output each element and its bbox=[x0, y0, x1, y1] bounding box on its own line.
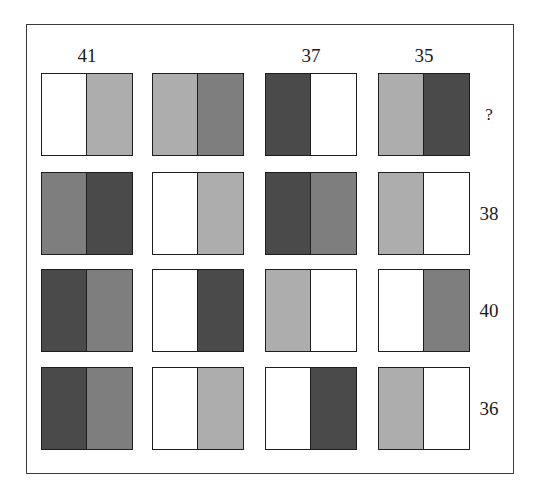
left-half-white bbox=[153, 270, 198, 351]
column-label-3: 37 bbox=[265, 44, 357, 68]
left-half-dark bbox=[42, 270, 87, 351]
split-square-r4-c4 bbox=[378, 367, 470, 450]
right-half-white bbox=[311, 74, 356, 155]
left-half-white bbox=[153, 368, 198, 449]
right-half-light bbox=[87, 74, 132, 155]
left-half-dark bbox=[42, 368, 87, 449]
row-label-3: 40 bbox=[474, 299, 504, 323]
column-label-1: 41 bbox=[41, 44, 133, 68]
right-half-white bbox=[424, 368, 469, 449]
split-square-r1-c1 bbox=[41, 73, 133, 156]
split-square-r4-c1 bbox=[41, 367, 133, 450]
split-square-r4-c3 bbox=[265, 367, 357, 450]
left-half-light bbox=[379, 173, 424, 254]
right-half-dark bbox=[311, 368, 356, 449]
left-half-light bbox=[379, 368, 424, 449]
column-label-4: 35 bbox=[378, 44, 470, 68]
right-half-light bbox=[198, 368, 243, 449]
left-half-dark bbox=[266, 173, 311, 254]
split-square-r4-c2 bbox=[152, 367, 244, 450]
left-half-light bbox=[266, 270, 311, 351]
split-square-r1-c4 bbox=[378, 73, 470, 156]
right-half-dark bbox=[87, 173, 132, 254]
row-label-4: 36 bbox=[474, 397, 504, 421]
left-half-dark bbox=[266, 74, 311, 155]
left-half-medium bbox=[42, 173, 87, 254]
left-half-white bbox=[266, 368, 311, 449]
split-square-r2-c1 bbox=[41, 172, 133, 255]
right-half-medium bbox=[424, 270, 469, 351]
right-half-medium bbox=[198, 74, 243, 155]
right-half-light bbox=[198, 173, 243, 254]
row-label-2: 38 bbox=[474, 202, 504, 226]
right-half-dark bbox=[424, 74, 469, 155]
split-square-r2-c4 bbox=[378, 172, 470, 255]
right-half-white bbox=[424, 173, 469, 254]
right-half-medium bbox=[87, 368, 132, 449]
split-square-r2-c2 bbox=[152, 172, 244, 255]
right-half-medium bbox=[311, 173, 356, 254]
split-square-r2-c3 bbox=[265, 172, 357, 255]
left-half-white bbox=[379, 270, 424, 351]
right-half-medium bbox=[87, 270, 132, 351]
left-half-white bbox=[153, 173, 198, 254]
left-half-light bbox=[379, 74, 424, 155]
split-square-r3-c4 bbox=[378, 269, 470, 352]
right-half-dark bbox=[198, 270, 243, 351]
right-half-white bbox=[311, 270, 356, 351]
split-square-r3-c3 bbox=[265, 269, 357, 352]
split-square-r1-c3 bbox=[265, 73, 357, 156]
left-half-white bbox=[42, 74, 87, 155]
left-half-light bbox=[153, 74, 198, 155]
split-square-r3-c2 bbox=[152, 269, 244, 352]
unknown-row-value: ? bbox=[474, 103, 504, 127]
split-square-r1-c2 bbox=[152, 73, 244, 156]
split-square-r3-c1 bbox=[41, 269, 133, 352]
